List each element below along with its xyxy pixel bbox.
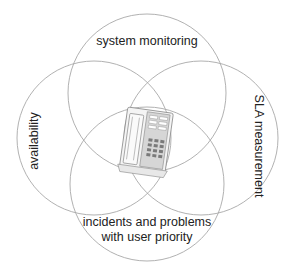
label-incidents-problems: incidents and problems with user priorit… <box>0 215 294 245</box>
label-availability: availability <box>27 112 42 170</box>
label-sla-measurement: SLA measurement <box>251 95 266 198</box>
telephone-icon <box>117 107 176 178</box>
label-incidents-line2: with user priority <box>0 230 294 245</box>
label-system-monitoring: system monitoring <box>0 34 294 49</box>
label-incidents-line1: incidents and problems <box>0 215 294 230</box>
